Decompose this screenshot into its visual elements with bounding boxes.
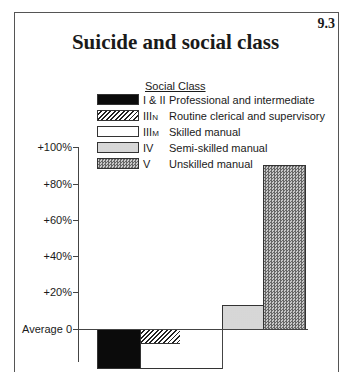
- legend-code: IV: [143, 142, 163, 154]
- legend-label: Semi-skilled manual: [169, 142, 267, 154]
- y-tick: [73, 256, 78, 257]
- y-tick: [73, 220, 78, 221]
- legend-swatch-solid: [97, 94, 139, 105]
- bar-class-4: [222, 305, 264, 330]
- bar-class-3n: [140, 329, 181, 344]
- y-tick-label: +80%: [44, 178, 72, 190]
- bar-class-1-2: [97, 329, 141, 369]
- legend-label: Professional and intermediate: [169, 94, 315, 106]
- legend-swatch-white: [97, 126, 139, 137]
- bar-class-3m: [180, 329, 223, 369]
- legend-label: Unskilled manual: [169, 158, 253, 170]
- legend-item-class-4: IV Semi-skilled manual: [97, 141, 267, 154]
- legend-label: Skilled manual: [169, 126, 241, 138]
- chart-title: Suicide and social class: [0, 30, 351, 55]
- legend-label: Routine clerical and supervisory: [169, 110, 325, 122]
- y-tick-label: +60%: [44, 214, 72, 226]
- legend-item-class-1-2: I & II Professional and intermediate: [97, 93, 315, 106]
- legend-code: IIIM: [143, 126, 163, 138]
- y-tick: [73, 184, 78, 185]
- legend-code: IIIN: [143, 110, 163, 122]
- legend-swatch-dots: [97, 142, 139, 153]
- legend-swatch-hatch: [97, 110, 139, 121]
- zero-baseline: [78, 329, 308, 330]
- y-tick-label: +100%: [37, 141, 72, 153]
- legend-heading: Social Class: [145, 80, 206, 92]
- y-tick-label: +20%: [44, 286, 72, 298]
- legend-item-class-3n: IIIN Routine clerical and supervisory: [97, 109, 325, 122]
- legend-item-class-5: V Unskilled manual: [97, 157, 253, 170]
- legend-item-class-3m: IIIM Skilled manual: [97, 125, 241, 138]
- bar-divider: [222, 329, 223, 369]
- legend-code: I & II: [143, 94, 163, 106]
- y-tick: [73, 292, 78, 293]
- y-tick-label: +40%: [44, 250, 72, 262]
- y-tick-label: Average 0: [22, 323, 72, 335]
- legend-swatch-checker: [97, 158, 139, 169]
- y-tick: [73, 147, 79, 148]
- bar-class-5: [263, 165, 306, 330]
- legend-code: V: [143, 158, 163, 170]
